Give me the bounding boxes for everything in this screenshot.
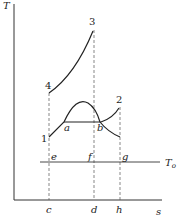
point-b-label: b xyxy=(97,122,103,133)
point-g-label: g xyxy=(122,151,128,162)
ts-diagram: T s 3 4 1 2 a b e f g To c d h xyxy=(0,0,183,220)
curve-b-2 xyxy=(101,108,119,122)
point-1-label: 1 xyxy=(41,133,47,144)
t0-label: To xyxy=(165,157,176,170)
y-axis-label: T xyxy=(3,0,11,11)
x-axis-label: s xyxy=(156,206,161,217)
curve-4-3 xyxy=(49,31,93,93)
point-a-label: a xyxy=(64,122,70,133)
point-2-label: 2 xyxy=(116,94,122,105)
point-f-label: f xyxy=(87,151,94,162)
point-d-label: d xyxy=(91,204,97,215)
point-h-label: h xyxy=(116,204,122,215)
point-4-label: 4 xyxy=(45,80,51,91)
saturation-dome xyxy=(49,102,120,137)
point-c-label: c xyxy=(46,204,52,215)
point-3-label: 3 xyxy=(89,16,95,27)
point-e-label: e xyxy=(51,151,57,162)
